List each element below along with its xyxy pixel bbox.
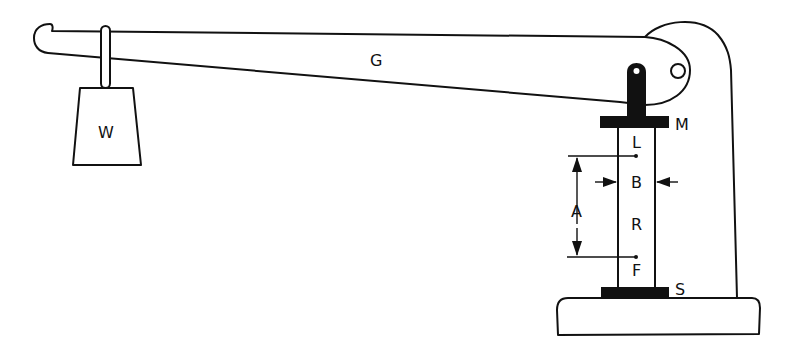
label-weight: W bbox=[98, 123, 114, 142]
label-width: B bbox=[631, 173, 642, 192]
label-upper-plate: M bbox=[675, 115, 689, 134]
apparatus-diagram: W G M L B R A F S bbox=[0, 0, 790, 358]
label-lower-plate: S bbox=[675, 280, 685, 299]
pivot-hole bbox=[671, 64, 685, 78]
arrow-left-icon bbox=[656, 177, 670, 187]
lug-hole bbox=[634, 68, 640, 74]
label-lower-mark: F bbox=[632, 261, 641, 280]
base bbox=[557, 298, 760, 335]
arrow-up-icon bbox=[572, 157, 582, 172]
hanger-rod bbox=[101, 26, 110, 88]
upper-plate bbox=[600, 116, 669, 128]
label-lever: G bbox=[370, 51, 382, 70]
arrow-right-icon bbox=[603, 177, 617, 187]
frame bbox=[645, 22, 737, 298]
label-upper-mark: L bbox=[632, 133, 641, 152]
lever bbox=[34, 24, 690, 105]
label-gauge-length: A bbox=[571, 202, 582, 221]
label-specimen: R bbox=[631, 215, 642, 234]
